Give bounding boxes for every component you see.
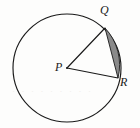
point-label-p: P bbox=[55, 61, 62, 73]
shaded-segment-region bbox=[105, 28, 120, 78]
point-label-q: Q bbox=[100, 4, 109, 16]
geometry-canvas bbox=[0, 0, 140, 128]
center-point-marker bbox=[66, 67, 68, 69]
point-label-r: R bbox=[120, 76, 127, 88]
radius-line-pr bbox=[67, 68, 118, 78]
radius-line-pq bbox=[67, 28, 105, 68]
circle-segment-figure: P Q R · · · · · · · · · bbox=[0, 0, 140, 128]
